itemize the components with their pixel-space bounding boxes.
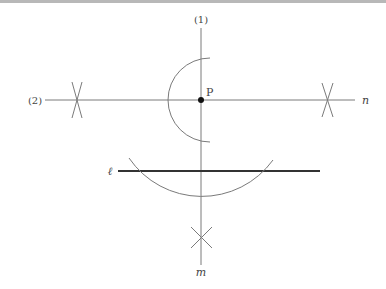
label-p: P [206,86,214,99]
construction-diagram: (1) (2) P n ℓ m [0,0,386,289]
label-m: m [196,266,206,279]
label-l: ℓ [108,165,113,178]
label-step1: (1) [194,14,208,25]
label-step2: (2) [28,95,42,106]
point-p [198,97,204,103]
label-n: n [362,94,369,107]
